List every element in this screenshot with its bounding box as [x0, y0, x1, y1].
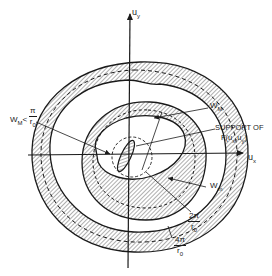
support-sub-y: y: [242, 138, 245, 144]
ux-axis-label: ux: [248, 153, 256, 162]
ux-sub: x: [253, 158, 256, 164]
uy-axis: [128, 14, 130, 268]
wM-top-sub: M: [218, 106, 223, 112]
pi-num: π: [29, 107, 37, 117]
wm-label: Wm: [210, 182, 223, 190]
support-sub-x: x: [232, 138, 235, 144]
four-pi-num: 4π: [174, 236, 186, 246]
wM-left-label: WM<: [10, 116, 27, 124]
wM-top-main: W: [210, 101, 218, 110]
pi-den-sub: 0: [32, 122, 35, 128]
uy-axis-label: uy: [132, 8, 140, 17]
wM-left-main: W: [10, 115, 18, 124]
support-mid: ,u: [235, 133, 241, 142]
four-pi-den-sub: 0: [180, 251, 183, 257]
wM-left-sub: M: [18, 120, 23, 126]
two-pi-over-r0-fraction: 2π r0: [188, 212, 200, 231]
four-pi-over-r0-fraction: 4π r0: [174, 236, 186, 255]
wM-top-label: WM: [210, 102, 223, 110]
wM-left-lt: <: [23, 115, 28, 124]
wm-main: W: [210, 181, 218, 190]
ux-axis: [28, 153, 243, 155]
outer-ring: [32, 62, 248, 252]
support-line1: SUPPORT OF: [215, 124, 263, 132]
two-pi-den-sub: 0: [194, 227, 197, 233]
support-line2: F(ux,uy): [221, 134, 263, 142]
support-label: SUPPORT OF F(ux,uy): [215, 124, 263, 141]
support-fn: F(u: [221, 133, 232, 142]
inner-ring: [82, 102, 206, 220]
uy-sub: y: [137, 13, 140, 19]
wm-sub: m: [218, 186, 223, 192]
two-pi-num: 2π: [188, 212, 200, 222]
two-pi-den: r0: [191, 222, 197, 231]
pi-den: r0: [30, 117, 36, 126]
pi-over-r0-fraction: π r0: [29, 107, 37, 126]
central-support-ellipse: [114, 138, 137, 173]
four-pi-den: r0: [177, 246, 183, 255]
